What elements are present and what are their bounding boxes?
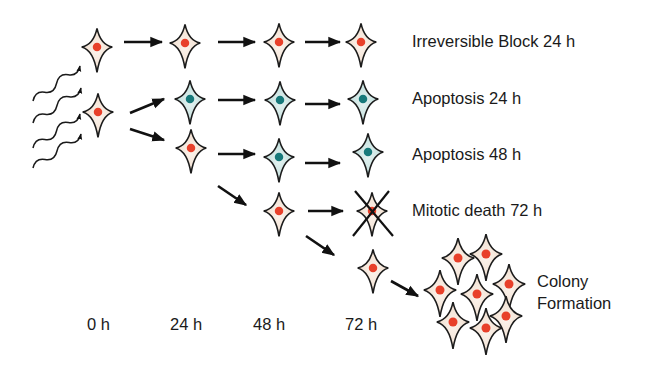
nucleus (359, 95, 368, 104)
cell-r3-t24 (176, 129, 207, 173)
nucleus (275, 38, 284, 47)
cells (82, 23, 393, 293)
outcome-label-mitotic-death: Mitotic death 72 h (412, 202, 542, 219)
nucleus (482, 250, 491, 259)
nucleus (181, 39, 190, 48)
nucleus (275, 153, 284, 162)
cell-r1-t0 (83, 93, 114, 137)
cell-r4-t48 (264, 192, 295, 236)
timepoint-24h: 24 h (170, 316, 202, 333)
outcome-label-irreversible-block: Irreversible Block 24 h (412, 33, 575, 50)
nucleus (449, 318, 458, 327)
nucleus (94, 108, 103, 117)
cell-r5-t72 (358, 249, 389, 293)
cell-r2-t72 (348, 80, 379, 124)
nucleus (454, 254, 463, 263)
wavy-radiation-arrow-icon (33, 66, 80, 101)
cell-r3-t72 (353, 133, 384, 177)
arrow-icon (306, 236, 334, 255)
cell-r4-t72 (353, 191, 393, 237)
cell-r2-t24 (175, 80, 206, 124)
outcome-label-apoptosis-48h: Apoptosis 48 h (412, 146, 521, 163)
cell-r0-t0 (82, 28, 113, 72)
cell-r1-t48 (264, 23, 295, 67)
outcome-label-colony-line2: Formation (537, 295, 611, 312)
cell-r1-t72 (346, 23, 377, 67)
timepoint-72h: 72 h (345, 316, 377, 333)
nucleus (502, 312, 511, 321)
arrow-icon (130, 99, 164, 113)
wavy-radiation-arrow-icon (33, 88, 81, 123)
cell-r1-t24 (170, 24, 201, 68)
cell-r2-t48 (265, 81, 296, 125)
outcome-label-colony-line1: Colony (537, 273, 588, 290)
nucleus (186, 95, 195, 104)
nucleus (436, 286, 445, 295)
timepoint-0h: 0 h (87, 316, 110, 333)
colony-cell-7 (490, 296, 522, 343)
nucleus (482, 324, 491, 333)
cell-r3-t48 (264, 138, 295, 182)
nucleus (187, 144, 196, 153)
nucleus (364, 148, 373, 157)
arrow-icon (130, 129, 164, 140)
colony-cell-1 (470, 234, 502, 281)
radiation-icon (33, 66, 81, 168)
timepoint-48h: 48 h (253, 316, 285, 333)
nucleus (505, 280, 514, 289)
nucleus (276, 96, 285, 105)
nucleus (275, 207, 284, 216)
arrow-icon (218, 186, 246, 205)
nucleus (357, 38, 366, 47)
nucleus (369, 264, 378, 273)
colony-cell-0 (442, 238, 474, 285)
arrow-icon (391, 281, 418, 296)
outcome-label-apoptosis-24h: Apoptosis 24 h (412, 90, 521, 107)
nucleus (93, 43, 102, 52)
nucleus (473, 290, 482, 299)
colony-cells (424, 234, 525, 355)
